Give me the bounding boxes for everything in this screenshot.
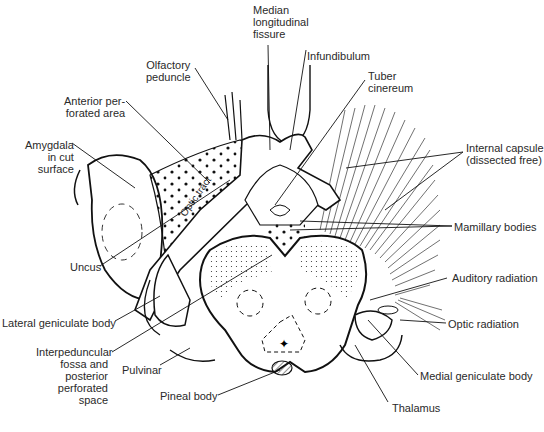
label-auditory-radiation: Auditory radiation xyxy=(452,272,538,284)
label-uncus: Uncus xyxy=(70,261,101,273)
label-lateral-geniculate-body: Lateral geniculate body xyxy=(2,317,116,329)
label-pulvinar: Pulvinar xyxy=(122,364,162,376)
label-internal-capsule: Internal capsule (dissected free) xyxy=(466,142,544,166)
label-median-longitudinal-fissure: Median longitudinal fissure xyxy=(253,4,309,40)
label-medial-geniculate-body: Medial geniculate body xyxy=(420,370,533,382)
label-amygdala: Amygdala in cut surface xyxy=(25,139,74,175)
label-mamillary-bodies: Mamillary bodies xyxy=(454,221,537,233)
label-thalamus: Thalamus xyxy=(392,402,440,414)
label-pineal-body: Pineal body xyxy=(160,390,218,402)
svg-text:✦: ✦ xyxy=(279,337,289,351)
label-interpeduncular-fossa: Interpeduncular fossa and posterior perf… xyxy=(36,346,108,406)
label-infundibulum: Infundibulum xyxy=(307,50,370,62)
pineal-body xyxy=(272,361,292,375)
label-tuber-cinereum: Tuber cinereum xyxy=(368,70,413,94)
label-optic-radiation: Optic radiation xyxy=(448,318,519,330)
label-anterior-perforated-area: Anterior per- forated area xyxy=(64,95,125,119)
label-olfactory-peduncle: Olfactory peduncle xyxy=(146,59,191,83)
